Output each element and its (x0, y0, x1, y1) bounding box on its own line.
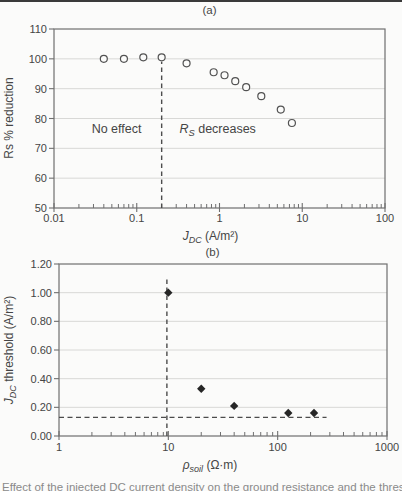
y-axis-label: Rs % reduction (2, 77, 16, 158)
x-tick-label: 1 (216, 212, 222, 224)
data-point (221, 72, 228, 79)
data-point (232, 78, 239, 85)
y-tick-label: 0.40 (31, 373, 52, 385)
panel-a-title: (a) (44, 4, 375, 16)
y-tick-label: 0.20 (31, 401, 52, 413)
y-axis-label: JDC threshold (A/m²) (2, 296, 18, 405)
data-point (310, 409, 318, 417)
data-point (288, 119, 295, 126)
data-point (243, 84, 250, 91)
x-tick-label: 100 (268, 441, 286, 453)
x-tick-label: 0.1 (129, 212, 144, 224)
data-point (100, 55, 107, 62)
y-tick-label: 80 (35, 113, 47, 125)
data-point (258, 93, 265, 100)
x-tick-label: 10 (296, 212, 308, 224)
figure-page: 50607080901001100.010.1110100No effectRS… (0, 0, 402, 491)
y-tick-label: 0.80 (31, 315, 52, 327)
x-tick-label: 1 (56, 441, 62, 453)
y-tick-label: 1.20 (31, 258, 52, 270)
data-point (284, 409, 292, 417)
data-point (140, 54, 147, 61)
data-point (230, 402, 238, 410)
annotation: RS decreases (179, 122, 255, 138)
annotation: No effect (92, 122, 142, 136)
panel-b-title: (b) (47, 246, 378, 258)
y-tick-label: 0.60 (31, 344, 52, 356)
data-point (183, 60, 190, 67)
x-axis-label: ρsoil (Ω·m) (182, 458, 238, 474)
y-tick-label: 90 (35, 83, 47, 95)
y-tick-label: 110 (29, 23, 47, 35)
data-point (164, 288, 172, 296)
y-tick-label: 70 (35, 142, 47, 154)
data-point (277, 106, 284, 113)
data-point (210, 69, 217, 76)
x-tick-label: 100 (376, 212, 394, 224)
y-tick-label: 0.00 (31, 430, 52, 442)
caption-fragment: Effect of the injected DC current densit… (2, 481, 402, 491)
data-point (197, 385, 205, 393)
data-point (120, 55, 127, 62)
x-tick-label: 10 (162, 441, 174, 453)
x-axis-label: JDC (A/m²) (182, 229, 239, 245)
x-tick-label: 0.01 (43, 212, 64, 224)
y-tick-label: 60 (35, 172, 47, 184)
data-point (158, 54, 165, 61)
y-tick-label: 1.00 (31, 287, 52, 299)
y-tick-label: 100 (29, 53, 47, 65)
x-tick-label: 1000 (375, 441, 399, 453)
